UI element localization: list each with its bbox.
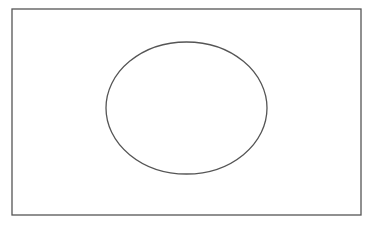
diagram-svg: [0, 0, 373, 228]
center-ellipse: [106, 42, 267, 174]
diagram-canvas: [0, 0, 373, 228]
outer-frame-rectangle: [12, 9, 361, 215]
